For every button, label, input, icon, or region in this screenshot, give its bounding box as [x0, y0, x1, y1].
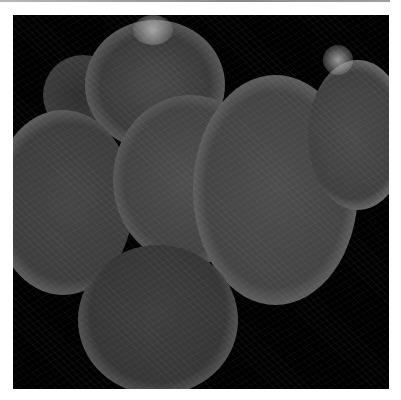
filament-texture — [13, 15, 389, 389]
top-divider-line — [0, 0, 390, 2]
microscopy-image — [13, 15, 389, 389]
